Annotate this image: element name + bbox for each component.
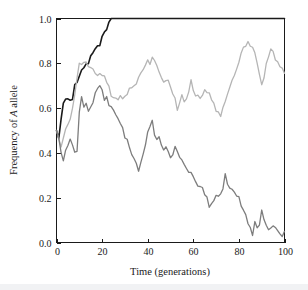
y-tick-label: 0.8: [39, 58, 52, 69]
series-line-population-1-fixation: [57, 19, 285, 139]
y-tick-label: 0.0: [39, 238, 52, 249]
x-tick-label: 60: [189, 246, 199, 257]
chart-figure: 020406080100 0.00.20.40.60.81.0 Time (ge…: [0, 0, 308, 290]
y-tick-label: 1.0: [39, 14, 52, 25]
x-tick-label: 40: [144, 246, 154, 257]
y-tick-label: 0.6: [39, 103, 52, 114]
y-tick-label: 0.2: [39, 193, 52, 204]
y-axis-title-word: of: [8, 119, 19, 131]
x-tick-label: 20: [98, 246, 108, 257]
y-axis-tick-labels: 0.00.20.40.60.81.0: [39, 14, 52, 249]
y-axis-title: Frequency of A allele: [8, 85, 19, 175]
y-axis-title-word: Frequency: [8, 130, 19, 175]
y-axis-title-word: allele: [8, 85, 19, 111]
series-line-population-3-declining: [57, 86, 285, 237]
y-tick-label: 0.4: [39, 148, 52, 159]
x-axis-title: Time (generations): [130, 266, 210, 278]
x-tick-label: 100: [278, 246, 293, 257]
x-axis-tick-labels: 020406080100: [55, 246, 293, 257]
x-tick-label: 0: [55, 246, 60, 257]
x-axis-ticks: [58, 239, 286, 243]
x-tick-label: 80: [235, 246, 245, 257]
page-edge-strip: [0, 284, 308, 290]
data-series-group: [57, 19, 285, 237]
plot-frame: [57, 19, 285, 243]
svg-text:Frequency of A allele: Frequency of A allele: [8, 85, 19, 175]
allele-frequency-chart: 020406080100 0.00.20.40.60.81.0 Time (ge…: [0, 0, 308, 290]
